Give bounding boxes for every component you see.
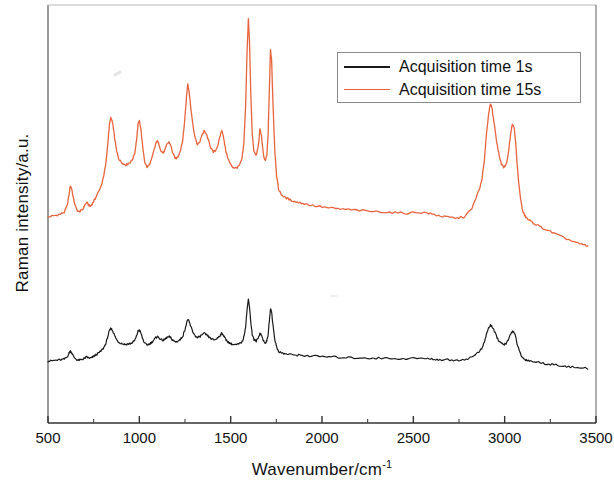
spectrum-line-1s xyxy=(48,299,588,369)
x-tick-label: 1000 xyxy=(123,429,156,446)
y-axis-label: Raman intensity/a.u. xyxy=(0,0,46,425)
legend-label-1s: Acquisition time 1s xyxy=(399,58,532,76)
legend-swatch-1s xyxy=(344,66,390,68)
raman-spectrum-figure: 500100015002000250030003500 Raman intens… xyxy=(0,0,614,496)
x-tick-label: 2500 xyxy=(397,429,430,446)
legend-item-15s: Acquisition time 15s xyxy=(344,78,574,101)
legend-label-15s: Acquisition time 15s xyxy=(399,81,541,99)
legend-box: Acquisition time 1s Acquisition time 15s xyxy=(337,52,581,103)
x-axis-label-superscript: -1 xyxy=(382,458,392,470)
x-axis-label-main: Wavenumber/cm xyxy=(252,460,382,479)
x-tick-label: 3500 xyxy=(579,429,612,446)
y-axis-label-text: Raman intensity/a.u. xyxy=(13,133,33,292)
x-axis-label-text: Wavenumber/cm-1 xyxy=(252,460,393,479)
x-tick-label: 500 xyxy=(35,429,60,446)
x-tick-label: 3000 xyxy=(488,429,521,446)
x-axis-ticks xyxy=(48,416,596,423)
x-axis-label: Wavenumber/cm-1 xyxy=(48,458,596,480)
x-tick-label: 1500 xyxy=(214,429,247,446)
legend-swatch-15s xyxy=(344,89,390,90)
legend-item-1s: Acquisition time 1s xyxy=(344,55,574,78)
x-tick-label: 2000 xyxy=(305,429,338,446)
